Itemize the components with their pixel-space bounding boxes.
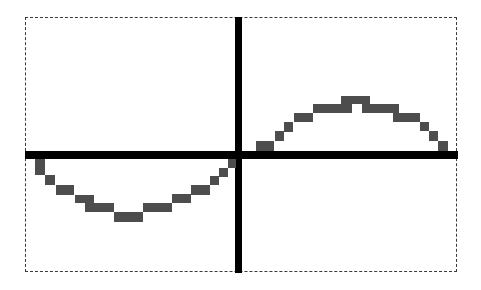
curve-pixel xyxy=(35,159,45,175)
curve-pixel xyxy=(429,131,438,141)
curve-pixel xyxy=(393,113,420,122)
curve-pixel xyxy=(294,113,313,122)
curve-pixel xyxy=(341,104,352,113)
curve-pixel xyxy=(114,212,143,222)
curve-pixel xyxy=(45,175,55,185)
y-axis xyxy=(235,17,242,273)
curve-pixel xyxy=(352,96,362,104)
curve-pixel xyxy=(56,185,74,195)
curve-pixel xyxy=(420,122,429,131)
curve-pixel xyxy=(85,203,114,212)
curve-pixel xyxy=(275,131,284,141)
curve-pixel xyxy=(284,122,293,132)
curve-pixel xyxy=(256,141,274,151)
curve-pixel xyxy=(210,176,219,185)
curve-pixel xyxy=(313,104,341,113)
curve-pixel xyxy=(143,203,172,212)
curve-pixel xyxy=(219,168,228,177)
curve-pixel xyxy=(362,104,399,113)
curve-pixel xyxy=(75,195,94,203)
graph-screen xyxy=(0,0,481,290)
curve-pixel xyxy=(191,185,210,195)
curve-pixel xyxy=(172,194,191,203)
curve-pixel xyxy=(228,159,236,168)
curve-pixel xyxy=(438,141,448,151)
